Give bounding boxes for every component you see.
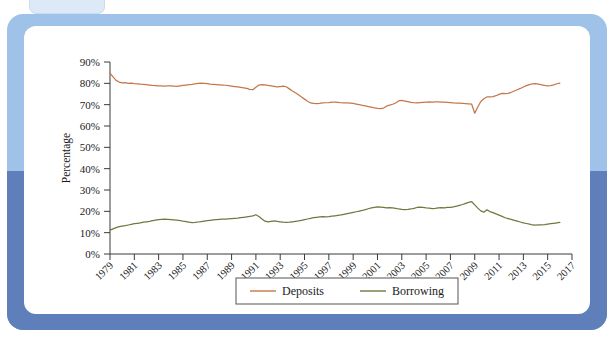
series-line-deposits — [110, 73, 560, 113]
chart-frame-border: 0%10%20%30%40%50%60%70%80%90% 1979198119… — [7, 14, 607, 330]
x-tick-label: 1989 — [214, 260, 237, 283]
y-tick-label: 80% — [80, 77, 100, 89]
y-tick-label: 40% — [80, 163, 100, 175]
y-tick-label: 50% — [80, 141, 100, 153]
y-tick-label: 60% — [80, 120, 100, 132]
x-tick-label: 2017 — [555, 260, 578, 283]
x-tick-label: 1979 — [93, 260, 116, 283]
x-axis-ticks — [110, 254, 572, 260]
y-axis-ticks — [104, 62, 110, 254]
legend-label-borrowing: Borrowing — [392, 284, 444, 298]
chart-plot-wrapper: 0%10%20%30%40%50%60%70%80%90% 1979198119… — [24, 26, 590, 314]
y-tick-label: 90% — [80, 56, 100, 68]
x-tick-label: 1981 — [117, 260, 140, 283]
y-tick-label: 10% — [80, 227, 100, 239]
x-tick-label: 2013 — [506, 260, 529, 283]
x-tick-label: 2011 — [482, 260, 504, 282]
chart-series-group — [110, 73, 560, 230]
cropped-tab-decoration — [29, 0, 105, 14]
y-tick-label: 0% — [85, 248, 100, 260]
chart-legend: DepositsBorrowing — [236, 278, 458, 304]
y-axis-tick-labels: 0%10%20%30%40%50%60%70%80%90% — [80, 56, 100, 260]
line-chart: 0%10%20%30%40%50%60%70%80%90% 1979198119… — [24, 26, 590, 314]
y-axis-title: Percentage — [60, 133, 73, 183]
legend-label-deposits: Deposits — [282, 284, 324, 298]
y-tick-label: 70% — [80, 99, 100, 111]
chart-axes — [110, 62, 572, 254]
x-tick-label: 1983 — [141, 260, 164, 283]
x-tick-label: 2015 — [530, 260, 553, 283]
screenshot-root: 0%10%20%30%40%50%60%70%80%90% 1979198119… — [0, 0, 616, 339]
series-line-borrowing — [110, 202, 560, 230]
y-tick-label: 20% — [80, 205, 100, 217]
x-tick-label: 1987 — [190, 260, 213, 283]
chart-panel: 0%10%20%30%40%50%60%70%80%90% 1979198119… — [24, 26, 590, 314]
x-tick-label: 2009 — [458, 260, 481, 283]
x-tick-label: 1985 — [166, 260, 189, 283]
y-tick-label: 30% — [80, 184, 100, 196]
